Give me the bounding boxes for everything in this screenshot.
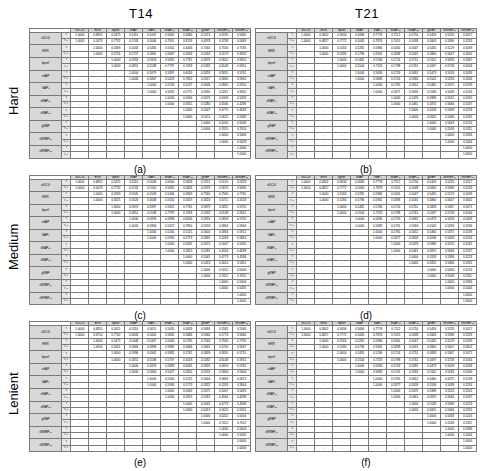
matrix-cell-empty: - xyxy=(423,298,441,304)
row-header-srrbps2: sRRBPs2 xyxy=(256,292,288,305)
correlation-matrix: nDCGERRbprefinfAPGAPssRAPs1sRAPs2gRBPsRR… xyxy=(29,321,251,452)
matrix-cell-empty: - xyxy=(441,445,459,451)
table-row: τAP---------1.0000 xyxy=(256,152,477,158)
matrix-cell: 1.0000 xyxy=(459,152,477,158)
matrix-cell-empty: - xyxy=(215,445,233,451)
matrix-cell-empty: - xyxy=(405,445,423,451)
matrix-cell-empty: - xyxy=(161,445,179,451)
row-header-sraps1: sRAPs1 xyxy=(30,389,62,402)
coefficient-label-tau-ap: τAP xyxy=(288,152,297,158)
row-header-grbp: gRBP xyxy=(30,267,62,280)
matrix-cell-empty: - xyxy=(423,445,441,451)
figure-root: T14 T21 Hard Medium Lenient nDCGERRbpref… xyxy=(0,0,480,471)
correlation-matrix: nDCGERRbprefinfAPGAPssRAPs1sRAPs2gRBPsRR… xyxy=(255,321,477,452)
matrix-cell-empty: - xyxy=(179,298,197,304)
matrix-cell-empty: - xyxy=(351,445,369,451)
coefficient-label-tau-ap: τAP xyxy=(62,298,71,304)
row-header-srrbps2: sRRBPs2 xyxy=(30,145,62,158)
row-header-sraps1: sRAPs1 xyxy=(256,95,288,108)
matrix-cell: 1.0000 xyxy=(233,298,251,304)
matrix-cell-empty: - xyxy=(369,152,387,158)
panel-caption: (d) xyxy=(253,310,479,321)
panel-caption: (e) xyxy=(27,457,253,468)
table-row: τAP---------1.0000 xyxy=(256,445,477,451)
matrix-cell-empty: - xyxy=(297,445,315,451)
panel-b: nDCGERRbprefinfAPGAPssRAPs1sRAPs2gRBPsRR… xyxy=(253,28,479,175)
matrix-cell: 1.0000 xyxy=(459,445,477,451)
row-header-ndcg: nDCG xyxy=(30,326,62,338)
row-header-srrbps1: sRRBPs1 xyxy=(256,133,288,146)
row-header-sraps2: sRAPs2 xyxy=(256,108,288,121)
matrix-cell-empty: - xyxy=(89,298,107,304)
row-header-srrbps1: sRRBPs1 xyxy=(30,280,62,293)
row-header-ndcg: nDCG xyxy=(256,326,288,338)
matrix-container: nDCGERRbprefinfAPGAPssRAPs1sRAPs2gRBPsRR… xyxy=(255,175,477,306)
row-header-srrbps2: sRRBPs2 xyxy=(256,439,288,452)
table-row: τAP---------1.0000 xyxy=(30,152,251,158)
row-header-err: ERR xyxy=(256,192,288,205)
matrix-cell-empty: - xyxy=(71,152,89,158)
matrix-container: nDCGERRbprefinfAPGAPssRAPs1sRAPs2gRBPsRR… xyxy=(255,28,477,159)
row-header-gaps: GAPs xyxy=(256,229,288,242)
matrix-cell-empty: - xyxy=(71,445,89,451)
column-title-t21: T21 xyxy=(254,6,480,28)
row-header-gaps: GAPs xyxy=(30,376,62,389)
matrix-cell-empty: - xyxy=(125,152,143,158)
row-header-gaps: GAPs xyxy=(30,229,62,242)
row-header-grbp: gRBP xyxy=(30,414,62,427)
row-header-bpref: bpref xyxy=(30,351,62,364)
row-header-ndcg: nDCG xyxy=(30,179,62,191)
matrix-cell-empty: - xyxy=(107,152,125,158)
matrix-cell-empty: - xyxy=(125,298,143,304)
matrix-cell-empty: - xyxy=(215,152,233,158)
panel-caption: (a) xyxy=(27,164,253,175)
matrix-cell-empty: - xyxy=(215,298,233,304)
row-header-grbp: gRBP xyxy=(30,120,62,133)
row-header-sraps2: sRAPs2 xyxy=(256,401,288,414)
matrix-cell-empty: - xyxy=(423,152,441,158)
matrix-cell-empty: - xyxy=(107,298,125,304)
matrix-cell-empty: - xyxy=(197,298,215,304)
row-header-gaps: GAPs xyxy=(30,83,62,96)
row-header-ndcg: nDCG xyxy=(256,33,288,45)
row-header-infap: infAP xyxy=(256,217,288,230)
row-header-infap: infAP xyxy=(30,363,62,376)
row-header-bpref: bpref xyxy=(256,204,288,217)
row-header-srrbps1: sRRBPs1 xyxy=(30,133,62,146)
row-header-err: ERR xyxy=(30,338,62,351)
panel-caption: (b) xyxy=(253,164,479,175)
matrix-cell-empty: - xyxy=(369,298,387,304)
matrix-cell-empty: - xyxy=(107,445,125,451)
row-header-sraps2: sRAPs2 xyxy=(30,108,62,121)
row-header-sraps2: sRAPs2 xyxy=(256,254,288,267)
column-titles: T14 T21 xyxy=(28,6,480,28)
row-header-bpref: bpref xyxy=(30,204,62,217)
coefficient-label-tau-ap: τAP xyxy=(62,152,71,158)
row-header-ndcg: nDCG xyxy=(30,33,62,45)
matrix-cell-empty: - xyxy=(351,298,369,304)
matrix-cell-empty: - xyxy=(89,152,107,158)
panel-d: nDCGERRbprefinfAPGAPssRAPs1sRAPs2gRBPsRR… xyxy=(253,175,479,322)
correlation-matrix: nDCGERRbprefinfAPGAPssRAPs1sRAPs2gRBPsRR… xyxy=(255,28,477,159)
matrix-cell-empty: - xyxy=(179,152,197,158)
matrix-cell-empty: - xyxy=(179,445,197,451)
row-group-label-hard: Hard xyxy=(0,28,26,173)
matrix-cell-empty: - xyxy=(297,152,315,158)
correlation-matrix: nDCGERRbprefinfAPGAPssRAPs1sRAPs2gRBPsRR… xyxy=(29,175,251,306)
matrix-cell-empty: - xyxy=(143,152,161,158)
row-header-err: ERR xyxy=(256,338,288,351)
table-row: τAP---------1.0000 xyxy=(30,298,251,304)
row-header-sraps1: sRAPs1 xyxy=(30,242,62,255)
row-header-grbp: gRBP xyxy=(256,267,288,280)
panel-e: nDCGERRbprefinfAPGAPssRAPs1sRAPs2gRBPsRR… xyxy=(27,321,253,468)
row-header-infap: infAP xyxy=(30,70,62,83)
coefficient-label-tau-ap: τAP xyxy=(62,445,71,451)
row-header-err: ERR xyxy=(256,45,288,58)
matrix-cell: 1.0000 xyxy=(233,152,251,158)
row-header-bpref: bpref xyxy=(256,351,288,364)
matrix-cell-empty: - xyxy=(333,152,351,158)
row-header-sraps1: sRAPs1 xyxy=(256,242,288,255)
row-group-label-lenient: Lenient xyxy=(0,320,26,468)
matrix-container: nDCGERRbprefinfAPGAPssRAPs1sRAPs2gRBPsRR… xyxy=(29,28,251,159)
row-header-bpref: bpref xyxy=(30,57,62,70)
